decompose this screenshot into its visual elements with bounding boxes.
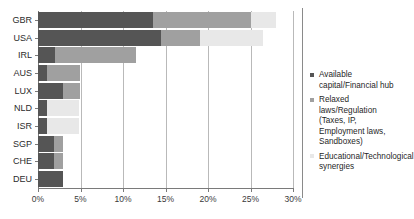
category-label: DEU [13, 171, 32, 187]
x-tick-mark [123, 188, 124, 192]
bar-segment-series-2 [54, 136, 63, 152]
legend-label: Available capital/Financial hub [319, 70, 394, 90]
bar-segment-series-3 [251, 12, 277, 28]
bar-segment-series-1 [38, 47, 55, 63]
category-label: SGP [13, 136, 32, 152]
bar-segment-series-3 [47, 118, 79, 134]
category-label: GBR [12, 12, 32, 28]
bar-row: GBR [38, 12, 293, 28]
bar-row: DEU [38, 171, 293, 187]
x-tick-mark [251, 188, 252, 192]
bar-segment-series-1 [38, 65, 47, 81]
bar-row: NLD [38, 100, 293, 116]
bar-segment-series-2 [153, 12, 251, 28]
x-tick-label: 30% [284, 194, 301, 204]
category-label: USA [13, 30, 32, 46]
legend-swatch-icon [310, 154, 314, 158]
bar-segment-series-1 [38, 12, 153, 28]
legend-item: Relaxed laws/Regulation (Taxes, IP, Empl… [310, 95, 402, 148]
x-tick-mark [81, 188, 82, 192]
x-tick-mark [293, 188, 294, 192]
bar-row: AUS [38, 65, 293, 81]
bar-segment-series-1 [38, 100, 47, 116]
chart-legend: Available capital/Financial hubRelaxed l… [310, 70, 402, 177]
category-label: ISR [17, 118, 32, 134]
bar-row: ISR [38, 118, 293, 134]
bar-segment-series-1 [38, 30, 161, 46]
bar-segment-series-2 [161, 30, 199, 46]
bar-segment-series-1 [38, 136, 54, 152]
legend-item: Educational/Technological synergies [310, 152, 402, 173]
x-tick-label: 10% [114, 194, 131, 204]
bar-segment-series-2 [54, 153, 63, 169]
category-label: CHE [13, 153, 32, 169]
bar-segment-series-2 [63, 83, 80, 99]
bar-row: IRL [38, 47, 293, 63]
bar-segment-series-2 [55, 47, 136, 63]
legend-swatch-icon [310, 73, 314, 77]
x-tick-label: 15% [157, 194, 174, 204]
bar-segment-series-1 [38, 118, 47, 134]
plot-area: GBRUSAIRLAUSLUXNLDISRSGPCHEDEU [38, 11, 293, 188]
category-label: LUX [14, 83, 32, 99]
category-label: AUS [13, 65, 32, 81]
x-tick-label: 0% [32, 194, 44, 204]
bar-row: CHE [38, 153, 293, 169]
bar-segment-series-3 [47, 100, 79, 116]
category-label: IRL [18, 47, 32, 63]
bar-segment-series-1 [38, 83, 63, 99]
bar-segment-series-2 [47, 65, 80, 81]
legend-item: Available capital/Financial hub [310, 70, 402, 91]
bar-segment-series-1 [38, 171, 63, 187]
legend-swatch-icon [310, 98, 314, 102]
category-label: NLD [14, 100, 32, 116]
x-tick-mark [208, 188, 209, 192]
legend-label: Educational/Technological synergies [319, 152, 414, 172]
bar-row: LUX [38, 83, 293, 99]
gridline [293, 11, 294, 188]
x-tick-label: 25% [242, 194, 259, 204]
x-tick-label: 20% [199, 194, 216, 204]
bar-segment-series-3 [200, 30, 264, 46]
x-tick-mark [38, 188, 39, 192]
legend-label: Relaxed laws/Regulation (Taxes, IP, Empl… [319, 95, 385, 146]
x-tick-mark [166, 188, 167, 192]
x-tick-label: 5% [74, 194, 86, 204]
bar-row: USA [38, 30, 293, 46]
legend-divider [302, 8, 303, 198]
bar-row: SGP [38, 136, 293, 152]
bar-segment-series-1 [38, 153, 54, 169]
